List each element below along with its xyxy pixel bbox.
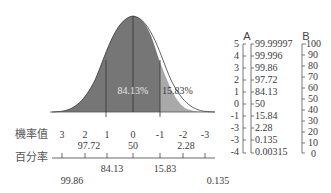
scale-a-z-tick: 5 [234, 39, 239, 49]
scale-a-z-tick: -3 [231, 135, 239, 145]
scale-b-tick: 70 [308, 72, 318, 82]
scale-a-z-tick: 0 [234, 99, 239, 109]
z-value: 2 [83, 130, 88, 140]
percentile-0-135: 0.135 [207, 176, 230, 186]
z-value: 1 [105, 130, 110, 140]
scale-b-tick: 90 [308, 50, 318, 60]
scale-b-tick: 0 [311, 149, 316, 159]
z-value: -3 [201, 130, 209, 140]
percentile-2-28: 2.28 [177, 141, 195, 151]
scale-a-percent-tick: 99.996 [255, 51, 283, 61]
probability-value-label: 機率值 [15, 130, 48, 140]
scale-a-percent-tick: 2.28 [255, 123, 273, 133]
scale-b-tick: 60 [308, 83, 318, 93]
scale-a-percent-tick: 50 [255, 99, 265, 109]
scale-b-ruler [302, 44, 306, 153]
scale-a-z-tick: -4 [231, 147, 239, 157]
scale-a-z-tick: 1 [234, 87, 239, 97]
scale-a-percent-tick: 97.72 [255, 75, 278, 85]
scale-b-tick: 40 [308, 105, 318, 115]
scale-a-percent-tick: 0.00315 [255, 147, 288, 157]
scale-a-z-tick: -3 [231, 123, 239, 133]
z-value: -2 [179, 130, 187, 140]
scale-a-percent-tick: 0.135 [255, 135, 278, 145]
percentile-99-86: 99.86 [61, 176, 84, 186]
z-value: -1 [156, 130, 164, 140]
area-right-label: 15.83% [162, 86, 193, 96]
percentile-84-13: 84.13 [101, 164, 124, 174]
scale-a-percent-tick: 99.99997 [255, 39, 293, 49]
percent-axis-ticks [62, 153, 205, 158]
scale-b-tick: 80 [308, 61, 318, 71]
percentage-label: 百分率 [15, 153, 48, 163]
area-left-label: 84.13% [118, 86, 149, 96]
scale-b-tick: 10 [308, 138, 318, 148]
scale-a-header: A [243, 31, 250, 41]
z-value: 0 [131, 130, 136, 140]
scale-a-z-tick: 3 [234, 63, 239, 73]
scale-a-percent-tick: 15.84 [255, 111, 278, 121]
scale-b-tick: 50 [308, 94, 318, 104]
scale-a-z-tick: -1 [231, 111, 239, 121]
percentile-50: 50 [128, 141, 138, 151]
scale-a-percent-tick: 84.13 [255, 87, 278, 97]
scale-b-tick: 30 [308, 116, 318, 126]
z-value: 3 [60, 130, 65, 140]
percentile-15-83: 15.83 [154, 164, 177, 174]
scale-b-tick: 20 [308, 127, 318, 137]
scale-a-z-tick: 4 [234, 51, 239, 61]
scale-a-z-tick: 2 [234, 75, 239, 85]
scale-b-tick: 100 [306, 39, 321, 49]
percentile-97-72: 97.72 [78, 141, 101, 151]
scale-a-percent-tick: 99.86 [255, 63, 278, 73]
scale-a-rulers [243, 44, 254, 153]
